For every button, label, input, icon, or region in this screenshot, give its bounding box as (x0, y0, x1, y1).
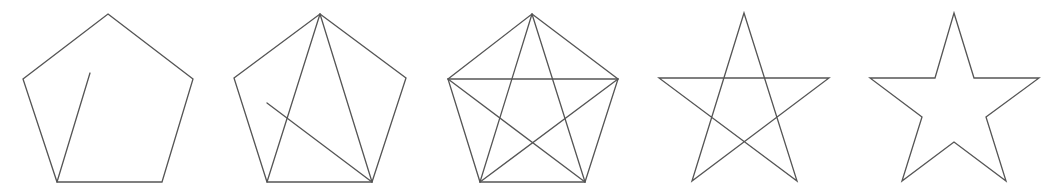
step-5-outline (870, 13, 1039, 181)
step-3-diagonal-1 (480, 14, 532, 182)
figure-step-5 (870, 13, 1039, 181)
step-2-diagonal-2 (320, 14, 372, 182)
figure-step-4 (659, 13, 829, 181)
step-2-outline (234, 14, 406, 182)
step-1-outline (23, 14, 193, 182)
figure-step-2 (234, 14, 406, 182)
step-2-diagonal-1 (267, 14, 320, 182)
step-3-diagonal-2 (532, 14, 585, 182)
step-2-diagonal-3 (267, 103, 372, 182)
pentagon-to-star-diagram (0, 0, 1055, 194)
step-4-outline (659, 13, 829, 181)
figure-step-3 (448, 14, 618, 182)
step-3-diagonal-4 (448, 79, 585, 182)
figure-step-1 (23, 14, 193, 182)
step-3-diagonal-5 (480, 79, 618, 182)
step-1-diagonal-1 (57, 73, 90, 182)
